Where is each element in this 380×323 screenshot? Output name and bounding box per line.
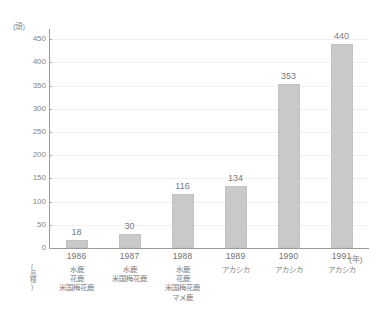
x-axis-species-label: 米国梅花鹿 — [104, 275, 156, 283]
bar — [278, 84, 300, 248]
bar-value-label: 134 — [216, 174, 256, 183]
y-tick-mark — [49, 248, 52, 249]
plot-area — [50, 30, 368, 248]
gridline — [50, 39, 368, 40]
gridline — [50, 62, 368, 63]
x-axis-year-label: 1986 — [51, 252, 103, 261]
bar-chart: (頭) 050100150200250300350400450 18301161… — [0, 0, 380, 323]
y-axis-unit-label: (頭) — [13, 20, 25, 31]
x-axis-species-label: 花鹿 — [157, 275, 209, 283]
x-axis-species-label: 米国梅花鹿 — [51, 284, 103, 292]
bar — [172, 194, 194, 248]
x-axis-year-label: 1990 — [263, 252, 315, 261]
gridline — [50, 178, 368, 179]
bar-value-label: 353 — [269, 72, 309, 81]
gridline — [50, 86, 368, 87]
x-axis-species-label: アカシカ — [316, 266, 368, 274]
x-axis-species-label: 水鹿 — [51, 266, 103, 274]
y-tick-mark — [49, 225, 52, 226]
y-tick-label: 450 — [16, 35, 46, 43]
gridline — [50, 109, 368, 110]
y-tick-label: 100 — [16, 198, 46, 206]
x-axis-unit-label: (年) — [349, 253, 362, 264]
x-axis-line — [49, 248, 369, 249]
y-tick-label: 350 — [16, 82, 46, 90]
gridline — [50, 202, 368, 203]
x-axis-species-label: 水鹿 — [104, 266, 156, 274]
gridline — [50, 155, 368, 156]
bar — [119, 234, 141, 248]
x-axis-category: 1989アカシカ — [210, 252, 262, 275]
bar-value-label: 440 — [322, 32, 362, 41]
y-tick-mark — [49, 62, 52, 63]
bar — [331, 44, 353, 248]
y-tick-mark — [49, 39, 52, 40]
gridline — [50, 132, 368, 133]
corner-axis-label: (品種) — [28, 263, 35, 289]
x-axis-year-label: 1988 — [157, 252, 209, 261]
y-tick-mark — [49, 155, 52, 156]
x-axis-species-label: 水鹿 — [157, 266, 209, 274]
x-axis-category: 1990アカシカ — [263, 252, 315, 275]
bar — [66, 240, 88, 248]
x-axis-category: 1987水鹿米国梅花鹿 — [104, 252, 156, 284]
y-tick-label: 400 — [16, 58, 46, 66]
x-axis-year-label: 1989 — [210, 252, 262, 261]
bar — [225, 186, 247, 248]
y-tick-label: 200 — [16, 151, 46, 159]
x-axis-species-label: 花鹿 — [51, 275, 103, 283]
x-axis-species-label: マメ鹿 — [157, 294, 209, 302]
y-tick-label: 250 — [16, 128, 46, 136]
y-tick-mark — [49, 109, 52, 110]
x-axis-category: 1986水鹿花鹿米国梅花鹿 — [51, 252, 103, 294]
bar-value-label: 30 — [110, 222, 150, 231]
gridline — [50, 225, 368, 226]
y-tick-label: 150 — [16, 174, 46, 182]
bar-value-label: 116 — [163, 182, 203, 191]
y-tick-mark — [49, 86, 52, 87]
y-tick-mark — [49, 132, 52, 133]
y-tick-mark — [49, 202, 52, 203]
x-axis-species-label: アカシカ — [210, 266, 262, 274]
bar-value-label: 18 — [57, 228, 97, 237]
x-axis-species-label: 米国梅花鹿 — [157, 284, 209, 292]
x-axis-year-label: 1987 — [104, 252, 156, 261]
y-tick-label: 0 — [16, 244, 46, 252]
y-tick-mark — [49, 178, 52, 179]
y-tick-label: 50 — [16, 221, 46, 229]
y-tick-label: 300 — [16, 105, 46, 113]
x-axis-species-label: アカシカ — [263, 266, 315, 274]
x-axis-category: 1988水鹿花鹿米国梅花鹿マメ鹿 — [157, 252, 209, 303]
